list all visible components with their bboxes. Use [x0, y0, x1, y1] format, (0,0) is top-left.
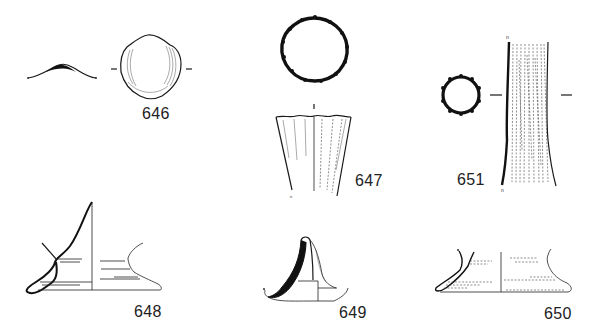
figure-650-label: 650 — [544, 306, 572, 322]
figure-647-elevation: n — [276, 104, 351, 199]
figure-647-rim-plan — [281, 15, 349, 83]
figure-651-section — [441, 74, 481, 116]
svg-text:n: n — [501, 187, 504, 193]
drawing-plate: n n n — [0, 0, 592, 331]
svg-text:n: n — [506, 34, 509, 40]
svg-text:n: n — [290, 194, 292, 199]
figure-651-label: 651 — [457, 172, 485, 188]
figure-646-profile — [27, 64, 97, 79]
figure-651-elevation: n n — [490, 34, 572, 193]
plate-drawings: n n n — [0, 0, 592, 331]
figure-649-label: 649 — [339, 305, 367, 321]
figure-649-section — [263, 237, 348, 301]
figure-647-label: 647 — [355, 173, 383, 189]
figure-646-label: 646 — [142, 106, 170, 122]
figure-646-plan — [111, 35, 192, 99]
figure-650-section — [436, 249, 572, 292]
figure-648-section — [27, 202, 162, 293]
figure-648-label: 648 — [134, 304, 162, 320]
